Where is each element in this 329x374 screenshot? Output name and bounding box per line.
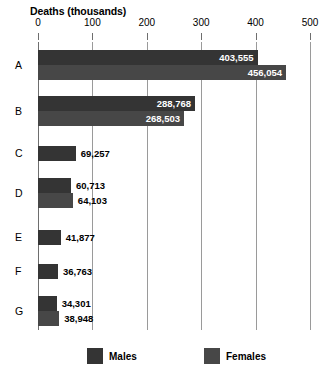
value-label-g-females: 38,948 [64,311,93,326]
x-tick-label: 500 [302,17,319,28]
gridline-400 [256,42,257,330]
bar-e-males [38,230,61,245]
legend-item-females[interactable]: Females [204,346,266,366]
bar-d-males [38,178,71,193]
bar-d-females [38,193,73,208]
chart-legend: MalesFemales [0,346,329,366]
category-label-e: E [15,231,22,243]
gridline-500 [310,42,311,330]
chart-axis-title: Deaths (thousands) [30,5,126,17]
legend-swatch-icon-males [87,348,103,364]
bar-chart: Deaths (thousands) 0100200300400500A403,… [0,0,329,374]
value-label-a-females: 456,054 [248,65,282,80]
value-label-d-males: 60,713 [76,178,105,193]
category-label-f: F [15,265,21,277]
x-tick-200 [147,33,148,40]
x-tick-0 [38,33,39,40]
category-label-g: G [15,305,23,317]
value-label-e-males: 41,877 [66,230,95,245]
legend-label: Males [109,351,137,362]
x-tick-label: 100 [84,17,101,28]
bar-c-males [38,146,76,161]
category-label-c: C [15,147,23,159]
x-tick-label: 400 [247,17,264,28]
x-tick-label: 200 [138,17,155,28]
gridline-200 [147,42,148,330]
value-label-b-males: 288,768 [157,96,191,111]
value-label-g-males: 34,301 [62,296,91,311]
plot-area: 0100200300400500A403,555456,054B288,7682… [38,42,310,330]
legend-label: Females [226,351,266,362]
x-tick-300 [201,33,202,40]
x-tick-100 [92,33,93,40]
legend-item-males[interactable]: Males [87,346,137,366]
category-label-d: D [15,187,23,199]
bar-f-males [38,264,58,279]
x-tick-label: 0 [35,17,41,28]
value-label-a-males: 403,555 [219,50,253,65]
legend-swatch-icon-females [204,348,220,364]
category-label-b: B [15,105,22,117]
value-label-f-males: 36,763 [63,264,92,279]
x-tick-label: 300 [193,17,210,28]
category-label-a: A [15,59,22,71]
bar-g-males [38,296,57,311]
x-tick-400 [256,33,257,40]
gridline-300 [201,42,202,330]
value-label-b-females: 268,503 [146,111,180,126]
bar-g-females [38,311,59,326]
x-tick-500 [310,33,311,40]
value-label-c-males: 69,257 [81,146,110,161]
value-label-d-females: 64,103 [78,193,107,208]
